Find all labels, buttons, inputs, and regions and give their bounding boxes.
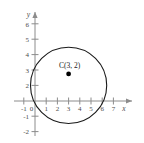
y-tick-label-5: 5 xyxy=(26,36,30,44)
x-tick-label-3: 3 xyxy=(67,105,71,113)
x-tick-label-7: 7 xyxy=(112,105,116,113)
y-tick-label-6: 6 xyxy=(26,21,30,29)
x-tick-label--1: -1 xyxy=(21,105,27,113)
coordinate-plane-figure: -1 0 1 2 3 4 5 6 7 6 5 4 3 2 -1 -2 y x C… xyxy=(0,0,144,143)
circle-graph-svg: -1 0 1 2 3 4 5 6 7 6 5 4 3 2 -1 -2 y x C… xyxy=(0,0,144,143)
x-tick-label-1: 1 xyxy=(44,105,48,113)
x-tick-label-0: 0 xyxy=(30,105,34,113)
x-tick-label-5: 5 xyxy=(89,105,93,113)
center-point-marker xyxy=(66,72,71,77)
x-tick-label-2: 2 xyxy=(56,105,60,113)
y-axis-label: y xyxy=(26,10,31,19)
y-axis-arrowhead xyxy=(32,12,37,18)
x-tick-label-4: 4 xyxy=(78,105,82,113)
y-tick-label-3: 3 xyxy=(26,67,30,75)
y-tick-label-4: 4 xyxy=(26,51,30,59)
center-point-label: C(3, 2) xyxy=(59,61,81,70)
y-tick-label--1: -1 xyxy=(23,113,29,121)
x-axis-label: x xyxy=(121,104,126,113)
x-axis-arrowhead xyxy=(126,98,132,103)
y-tick-labels: 6 5 4 3 2 -1 -2 xyxy=(23,21,29,137)
y-tick-label--2: -2 xyxy=(23,128,29,136)
y-tick-label-2: 2 xyxy=(26,82,30,90)
